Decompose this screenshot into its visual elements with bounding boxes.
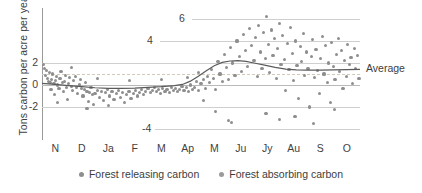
data-point [238,55,241,58]
data-point [303,74,306,77]
legend-dot-icon [219,172,224,177]
data-point [206,75,209,78]
data-point [329,101,332,104]
data-point [321,35,324,38]
data-point [356,54,359,57]
data-point [275,77,278,80]
data-point [153,86,156,89]
data-point [129,97,132,100]
data-point [140,88,143,91]
data-point [283,58,286,61]
data-point [248,27,251,30]
data-point [300,60,303,63]
data-point [108,94,111,97]
data-point [265,15,268,18]
x-tick-label: Jy [262,142,273,154]
data-point [313,76,316,79]
data-point [235,39,238,42]
data-point [244,49,247,52]
data-point [76,92,79,95]
data-point [240,70,243,73]
data-point [279,63,282,66]
data-point [354,67,357,70]
data-point [214,88,217,91]
x-tick-label: O [343,142,351,154]
data-point [106,88,109,91]
data-point [185,86,188,89]
data-point [330,41,333,44]
data-point [231,61,234,64]
data-point [186,76,189,79]
data-point [123,101,126,104]
data-point [349,56,352,59]
data-point [229,46,232,49]
data-point [93,92,96,95]
data-point [268,71,271,74]
data-point [335,53,338,56]
data-point [260,67,263,70]
data-point [346,43,349,46]
data-point [62,90,65,93]
data-point [70,66,73,69]
data-point [208,81,211,84]
data-point [71,89,74,92]
data-point [70,85,73,88]
data-point [92,103,95,106]
data-point [50,78,53,81]
data-point [65,86,68,89]
data-point [119,96,122,99]
data-point [182,89,185,92]
carbon-flux-scatter-chart: Tons carbon per acre per year 20-2 64-4 … [0,0,422,193]
y-tick-label: 0 [14,78,38,90]
data-point [132,92,135,95]
data-point [252,59,255,62]
data-point [87,100,90,103]
legend-item: Forest absorbing carbon [219,168,343,180]
data-point [72,79,75,82]
data-point [311,38,314,41]
data-point [333,78,336,81]
data-point [42,63,45,66]
x-tick-label: Ja [103,142,114,154]
data-point [115,92,118,95]
data-point [306,67,309,70]
data-point [85,107,88,110]
data-point [250,44,253,47]
data-point [257,24,260,27]
data-point [58,77,61,80]
data-point [159,92,162,95]
data-point [302,32,305,35]
data-point [110,90,113,93]
x-tick-label: Ap [181,142,194,154]
y-tick-label: 2 [14,56,38,68]
data-point [117,89,120,92]
data-point [134,89,137,92]
data-point [230,121,233,124]
data-point [278,22,281,25]
data-point [259,50,262,53]
data-point [121,91,124,94]
data-point [63,80,66,83]
data-point [341,87,344,90]
data-point [59,70,62,73]
data-point [312,122,315,125]
data-point [273,37,276,40]
x-axis-labels: NDJaFMApMJuJyAuSO [42,142,360,158]
data-point [104,91,107,94]
data-point [327,61,330,64]
data-point [54,79,57,82]
data-point [189,83,192,86]
data-point [256,75,259,78]
data-point [294,39,297,42]
data-point [142,93,145,96]
data-point [79,78,82,81]
data-point [197,71,200,74]
data-point [212,77,215,80]
data-point [314,48,317,51]
x-tick-label: S [317,142,324,154]
x-tick-label: M [210,142,219,154]
data-point [68,76,71,79]
data-point [57,87,60,90]
data-point [322,72,325,75]
data-point [338,70,341,73]
